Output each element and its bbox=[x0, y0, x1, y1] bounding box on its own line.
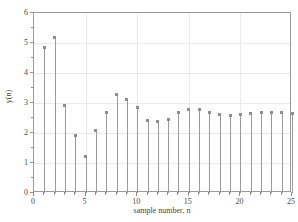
data-point-marker bbox=[125, 98, 128, 101]
y-axis-tick-minor bbox=[31, 147, 34, 148]
x-axis-tick-minor bbox=[208, 192, 209, 195]
data-point-marker bbox=[63, 104, 66, 107]
stem-line bbox=[148, 120, 149, 193]
y-axis-tick-minor bbox=[31, 87, 34, 88]
x-axis-tick-minor bbox=[43, 192, 44, 195]
stem-line bbox=[158, 121, 159, 193]
x-axis-tick-minor bbox=[157, 192, 158, 195]
x-axis-tick-minor bbox=[105, 192, 106, 195]
y-axis-tick-minor bbox=[31, 117, 34, 118]
y-axis-tick-label: 0 bbox=[11, 188, 28, 197]
stem-line bbox=[65, 106, 66, 193]
stem-line bbox=[127, 99, 128, 193]
data-point-marker bbox=[74, 134, 77, 137]
data-point-marker bbox=[198, 108, 201, 111]
data-point-marker bbox=[43, 46, 46, 49]
data-point-marker bbox=[218, 113, 221, 116]
data-point-marker bbox=[208, 111, 211, 114]
stem-line bbox=[117, 94, 118, 193]
data-point-marker bbox=[291, 112, 294, 115]
y-axis-tick-major bbox=[30, 102, 34, 103]
x-axis-tick-minor bbox=[177, 192, 178, 195]
x-axis-tick-minor bbox=[74, 192, 75, 195]
stem-line bbox=[178, 112, 179, 193]
x-axis-tick-minor bbox=[54, 192, 55, 195]
y-axis-tick-major bbox=[30, 42, 34, 43]
x-axis-tick-minor bbox=[250, 192, 251, 195]
stem-line bbox=[292, 113, 293, 193]
gridline-horizontal bbox=[34, 43, 290, 44]
data-point-marker bbox=[146, 119, 149, 122]
y-axis-tick-minor bbox=[31, 57, 34, 58]
stem-line bbox=[55, 37, 56, 193]
stem-line bbox=[106, 112, 107, 193]
x-axis-tick-label: 20 bbox=[235, 197, 243, 206]
y-axis-tick-major bbox=[30, 162, 34, 163]
x-axis-tick-minor bbox=[198, 192, 199, 195]
stem-line bbox=[261, 112, 262, 193]
x-axis-tick-label: 15 bbox=[184, 197, 192, 206]
x-axis-tick-minor bbox=[116, 192, 117, 195]
stem-line bbox=[230, 115, 231, 193]
stem-line bbox=[44, 48, 45, 194]
x-axis-tick-label: 0 bbox=[31, 197, 35, 206]
x-axis-tick-minor bbox=[64, 192, 65, 195]
data-point-marker bbox=[229, 114, 232, 117]
stem-line bbox=[240, 114, 241, 193]
x-axis-tick-minor bbox=[229, 192, 230, 195]
data-point-marker bbox=[280, 111, 283, 114]
data-point-marker bbox=[260, 111, 263, 114]
y-axis-tick-major bbox=[30, 192, 34, 193]
gridline-horizontal bbox=[34, 103, 290, 104]
plot-area bbox=[33, 12, 291, 192]
stem-line bbox=[137, 108, 138, 193]
x-axis-tick-major bbox=[136, 192, 137, 196]
stem-line bbox=[209, 113, 210, 193]
stem-line bbox=[86, 156, 87, 193]
stem-line bbox=[220, 114, 221, 193]
data-point-marker bbox=[53, 36, 56, 39]
stem-line bbox=[96, 131, 97, 193]
stem-line bbox=[271, 112, 272, 193]
x-axis-tick-minor bbox=[219, 192, 220, 195]
y-axis-tick-major bbox=[30, 12, 34, 13]
data-point-marker bbox=[249, 112, 252, 115]
x-axis-label: sample number, n bbox=[33, 206, 291, 215]
y-axis-tick-major bbox=[30, 132, 34, 133]
y-axis-tick-label: 6 bbox=[11, 8, 28, 17]
data-point-marker bbox=[105, 111, 108, 114]
data-point-marker bbox=[187, 108, 190, 111]
data-point-marker bbox=[84, 155, 87, 158]
x-axis-tick-major bbox=[239, 192, 240, 196]
data-point-marker bbox=[115, 93, 118, 96]
data-point-marker bbox=[94, 129, 97, 132]
x-axis-tick-minor bbox=[126, 192, 127, 195]
data-point-marker bbox=[177, 111, 180, 114]
x-axis-tick-major bbox=[291, 192, 292, 196]
y-axis-tick-label: 3 bbox=[11, 98, 28, 107]
x-axis-tick-major bbox=[188, 192, 189, 196]
x-axis-tick-label: 25 bbox=[287, 197, 295, 206]
data-point-marker bbox=[167, 118, 170, 121]
gridline-horizontal bbox=[34, 73, 290, 74]
y-axis-tick-label: 5 bbox=[11, 38, 28, 47]
data-point-marker bbox=[239, 113, 242, 116]
stem-line bbox=[168, 119, 169, 193]
y-axis-tick-label: 4 bbox=[11, 68, 28, 77]
y-axis-tick-label: 1 bbox=[11, 158, 28, 167]
y-axis-label: y(n) bbox=[4, 77, 13, 117]
x-axis-tick-minor bbox=[270, 192, 271, 195]
data-point-marker bbox=[270, 111, 273, 114]
x-axis-tick-minor bbox=[260, 192, 261, 195]
x-axis-tick-major bbox=[85, 192, 86, 196]
y-axis-tick-label: 2 bbox=[11, 128, 28, 137]
data-point-marker bbox=[136, 106, 139, 109]
chart-figure: y(n) sample number, n 05101520250123456 bbox=[0, 0, 298, 222]
stem-line bbox=[189, 110, 190, 193]
stem-line bbox=[251, 113, 252, 193]
y-axis-tick-major bbox=[30, 72, 34, 73]
x-axis-tick-label: 5 bbox=[83, 197, 87, 206]
x-axis-tick-minor bbox=[167, 192, 168, 195]
y-axis-tick-minor bbox=[31, 177, 34, 178]
x-axis-tick-minor bbox=[95, 192, 96, 195]
